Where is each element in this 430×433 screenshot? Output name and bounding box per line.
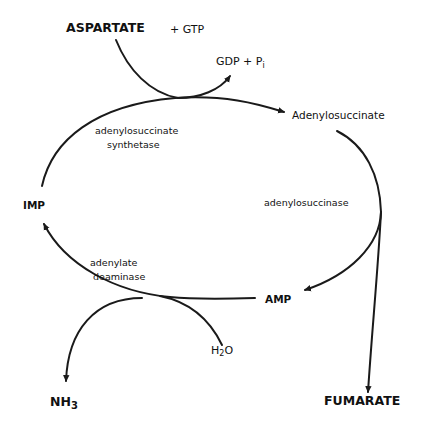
enzyme-adenylosuccinate-synthetase: adenylosuccinate synthetase: [95, 124, 178, 152]
arc-nh3-output: [66, 298, 142, 381]
enzyme-adenylate-deaminase: adenylate deaminase: [90, 256, 145, 284]
fumarate-label: FUMARATE: [324, 395, 400, 408]
h2o-sub: 2: [219, 349, 224, 358]
arc-gdp-output: [178, 76, 230, 98]
amp-label: AMP: [265, 294, 291, 305]
h2o-o: O: [224, 344, 233, 357]
gdp-pi-label: GDP + Pi: [216, 56, 265, 67]
aspartate-label: ASPARTATE: [66, 22, 145, 35]
gdp-pi-main: GDP + P: [216, 55, 262, 68]
arc-h2o-input: [160, 296, 222, 345]
nh3-sub: 3: [71, 400, 78, 411]
enzyme-adenylosuccinase: adenylosuccinase: [264, 196, 348, 210]
cycle-arrows: [0, 0, 430, 433]
arc-adenylosuccinate-to-amp: [305, 131, 381, 290]
deaminase-line1: adenylate: [90, 256, 145, 270]
nh3-label: NH3: [50, 396, 78, 409]
arc-amp-to-imp: [44, 224, 255, 299]
gtp-label: + GTP: [170, 24, 204, 35]
imp-label: IMP: [23, 200, 45, 211]
synthetase-line1: adenylosuccinate: [95, 124, 178, 138]
adenylosuccinate-label: Adenylosuccinate: [292, 110, 385, 121]
arc-aspartate-input: [116, 40, 178, 98]
h2o-label: H2O: [211, 345, 233, 356]
gdp-pi-sub: i: [262, 61, 264, 70]
synthetase-line2: synthetase: [95, 138, 178, 152]
nh3-main: NH: [50, 394, 71, 409]
deaminase-line2: deaminase: [90, 270, 145, 284]
